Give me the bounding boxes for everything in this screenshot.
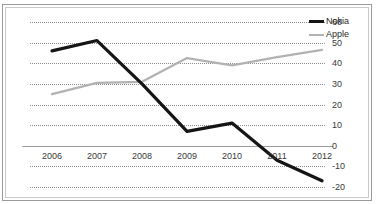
cut-off-title-text <box>6 0 256 2</box>
y-tick-label-40: 40 <box>332 59 342 68</box>
chart-screenshot: 6050403020100-10-20 20062007200820092010… <box>0 0 376 204</box>
x-tick-label-2010: 2010 <box>212 152 252 161</box>
x-tick-label-2006: 2006 <box>32 152 72 161</box>
legend-swatch-nokia-line <box>309 20 324 23</box>
x-tick-label-2007: 2007 <box>77 152 117 161</box>
x-tick-label-2011: 2011 <box>257 152 297 161</box>
x-tick-label-2012: 2012 <box>302 152 342 161</box>
y-tick-label-neg20: -20 <box>332 183 345 192</box>
y-tick-label-30: 30 <box>332 80 342 89</box>
legend-swatch-apple-line <box>309 34 324 36</box>
x-tick-label-2009: 2009 <box>167 152 207 161</box>
y-tick-label-10: 10 <box>332 121 342 130</box>
y-tick-label-neg10: -10 <box>332 162 345 171</box>
series-line-apple <box>52 50 322 94</box>
series-lines <box>30 10 325 195</box>
x-tick-label-2008: 2008 <box>122 152 162 161</box>
y-tick-label-0: 0 <box>332 142 337 151</box>
y-tick-label-20: 20 <box>332 101 342 110</box>
legend-label-nokia: Nokia <box>326 15 349 27</box>
legend-label-apple: Apple <box>326 28 349 40</box>
